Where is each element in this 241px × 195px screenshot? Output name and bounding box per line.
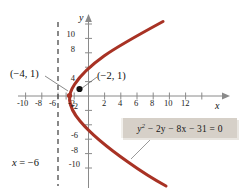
y-tick-label-4: 4 — [71, 73, 75, 82]
directrix-label-eq: = −6 — [17, 157, 39, 168]
y-axis-label: y — [79, 13, 83, 23]
focus-point — [76, 86, 82, 92]
x-tick-label-2: 2 — [102, 99, 106, 108]
directrix-label: x = −6 — [12, 158, 39, 169]
equation-callout[interactable]: y2 − 2y − 8x − 31 = 0 — [121, 118, 237, 138]
y-tick-label-neg2: -2 — [71, 102, 78, 111]
x-tick-label-12: 12 — [181, 99, 190, 108]
callout-leader-line — [131, 140, 150, 159]
vertex-label: (−4, 1) — [10, 69, 39, 80]
focus-label: (−2, 1) — [97, 71, 126, 82]
x-axis-label: x — [215, 101, 219, 111]
x-tick-label-neg6: -6 — [49, 99, 56, 108]
y-tick-label-8: 8 — [71, 44, 75, 53]
x-tick-label-8: 8 — [150, 99, 154, 108]
equation-text: y2 − 2y − 8x − 31 = 0 — [137, 122, 222, 134]
y-axis — [85, 14, 92, 188]
x-tick-label-neg10: -10 — [17, 99, 28, 108]
x-tick-label-6: 6 — [134, 99, 138, 108]
x-tick-label-neg8: -8 — [35, 99, 42, 108]
x-tick-label-10: 10 — [164, 99, 173, 108]
vertex-leader-line — [45, 76, 68, 91]
parabola-figure: y x -10 -8 -6 -2 2 4 6 8 10 12 10 8 4 -2… — [0, 0, 241, 195]
y-tick-label-neg8: -8 — [71, 145, 78, 154]
y-tick-label-neg6: -6 — [71, 131, 78, 140]
y-tick-label-10: 10 — [67, 30, 76, 39]
x-tick-label-4: 4 — [118, 99, 122, 108]
equation-body: − 2y − 8x − 31 = 0 — [145, 124, 222, 134]
y-tick-label-neg10: -10 — [69, 160, 80, 169]
